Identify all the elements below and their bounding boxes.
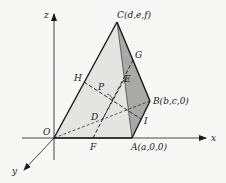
label-point-E: E bbox=[123, 74, 131, 84]
label-vertex-C: C(d,e,f) bbox=[117, 10, 152, 20]
label-y-axis: y bbox=[11, 166, 18, 176]
tetrahedron-diagram: z x y C(d,e,f) O A(a,0,0) B(b,c,0) G E H… bbox=[0, 0, 226, 183]
label-point-G: G bbox=[135, 50, 142, 60]
label-point-D: D bbox=[90, 112, 98, 122]
label-point-F: F bbox=[89, 142, 97, 152]
label-x-axis: x bbox=[211, 133, 216, 143]
label-vertex-B: B(b,c,0) bbox=[152, 96, 189, 106]
label-z-axis: z bbox=[43, 10, 49, 20]
label-point-H: H bbox=[73, 73, 82, 83]
y-axis bbox=[24, 138, 54, 170]
label-point-I: I bbox=[143, 116, 148, 126]
label-vertex-O: O bbox=[43, 127, 51, 137]
label-vertex-A: A(a,0,0) bbox=[130, 142, 168, 152]
label-point-P: P bbox=[97, 82, 105, 92]
